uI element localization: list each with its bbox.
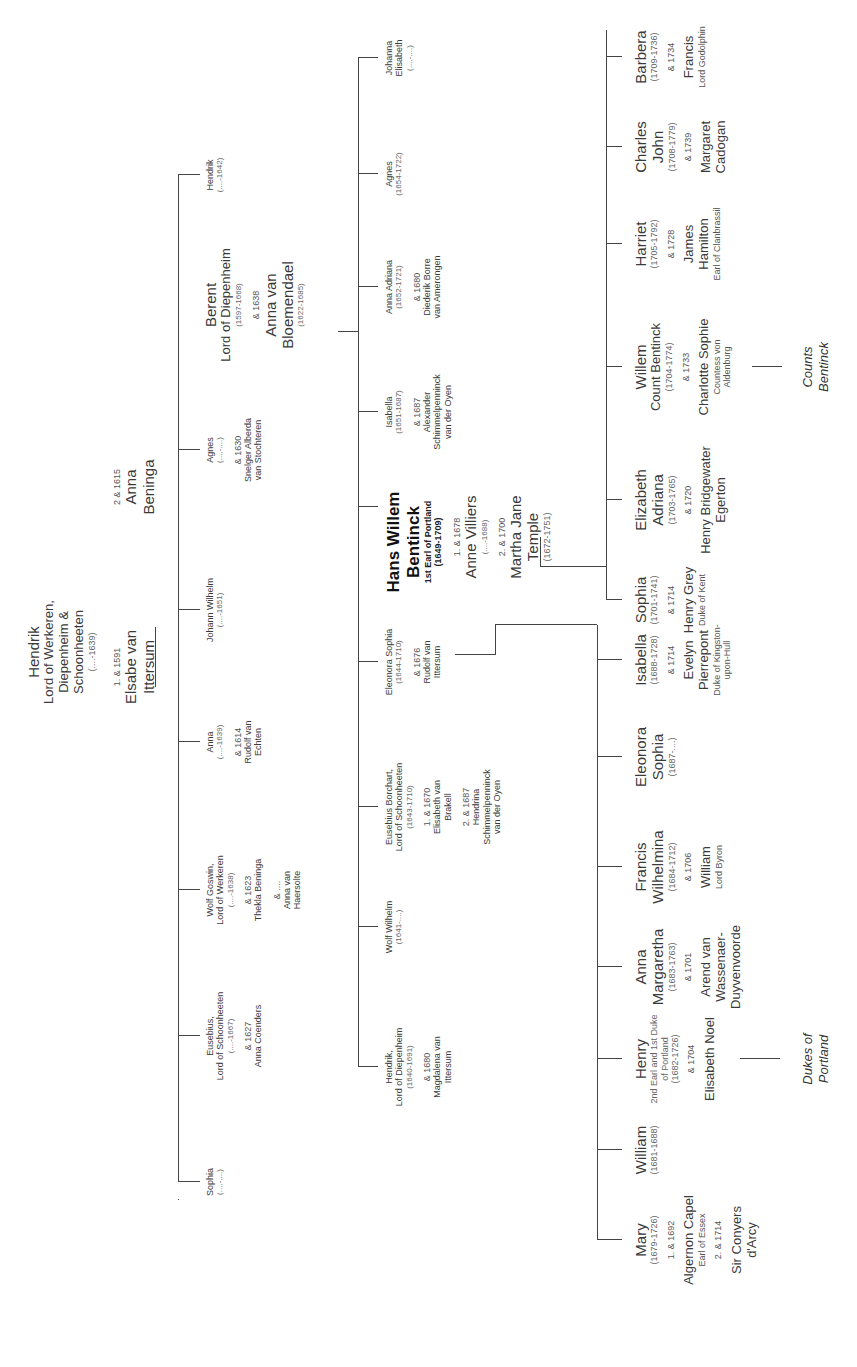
connector xyxy=(155,627,156,687)
name: Elisabeth xyxy=(394,39,404,76)
years: (1597-1668) xyxy=(234,248,243,361)
person-anna-adriana: Anna Adriana (1652-1721) & 1680 Diederik… xyxy=(384,255,443,318)
years: (1705-1792) xyxy=(649,207,659,280)
person-isabella: Isabella (1651-1687) & 1687 Alexander Sc… xyxy=(384,374,453,450)
name: Hendrik xyxy=(205,158,215,193)
name: Sophia xyxy=(632,567,649,633)
connector xyxy=(338,331,358,332)
name: Hans Willem xyxy=(384,492,404,593)
connector xyxy=(570,566,606,567)
name: Elizabeth xyxy=(632,446,649,554)
years: (1640-1691) xyxy=(405,1028,414,1107)
spouse: Elisabeth van xyxy=(432,763,442,852)
connector xyxy=(358,806,378,807)
person-barbera: Barbera (1709-1736) & 1734 Francis Lord … xyxy=(632,26,707,88)
name: Harriet xyxy=(632,207,649,280)
connector xyxy=(752,366,782,367)
person-agnes: Agnes (....-....) & 1630 Snelger Alberda… xyxy=(205,418,264,482)
title: Lord of Schoonheeten xyxy=(215,992,225,1081)
person-sophia-jr: Sophia (1701-1741) & 1714 Henry Grey Duk… xyxy=(632,567,707,633)
connector xyxy=(178,741,200,742)
spouse: Duyvenvoorde xyxy=(729,925,744,1009)
title-line: Schoonheeten xyxy=(72,600,87,704)
name: Sophia xyxy=(649,727,666,787)
connector xyxy=(606,146,622,147)
spouse: Martha Jane xyxy=(507,495,524,578)
name: Anna Adriana xyxy=(384,255,394,318)
name: Hendrik, xyxy=(384,1028,394,1107)
root-spouse-1: 1. & 1591 Elsabe van Ittersum xyxy=(112,630,157,704)
person-hendrik-diepenheim: Hendrik, Lord of Diepenheim (1640-1691) … xyxy=(384,1028,453,1107)
years: (....-1638) xyxy=(226,855,235,924)
marriage: & 1704 xyxy=(686,1014,696,1103)
root-spouse-2: 2 & 1615 Anna Beninga xyxy=(112,459,157,514)
years: (....-1667) xyxy=(226,992,235,1081)
spouse: Alexander xyxy=(422,374,432,450)
label-dukes-of-portland: Dukes of Portland xyxy=(800,1033,831,1084)
connector xyxy=(178,174,200,175)
connector xyxy=(597,756,622,757)
spouse: James xyxy=(682,207,697,280)
marriage: & 1687 xyxy=(412,374,422,450)
spouse: Schimmelpenninck xyxy=(432,374,442,450)
spouse: Egerton xyxy=(714,446,729,554)
connector xyxy=(597,966,622,967)
years: (....-....) xyxy=(215,418,224,482)
person-eleonora-sophia: Eleonora Sophia (1644-1710) & 1676 Rudol… xyxy=(384,629,443,696)
connector xyxy=(597,1149,622,1150)
spouse: Beninga xyxy=(140,459,157,514)
person-charles-john: Charles John (1708-1779) & 1739 Margaret… xyxy=(632,121,729,174)
label-line: Dukes of xyxy=(800,1033,816,1084)
connector xyxy=(358,286,378,287)
years: (....-1642) xyxy=(215,158,224,193)
connector xyxy=(178,1199,179,1200)
title: Lord of Diepenheim xyxy=(394,1028,404,1107)
spouse: Bloemendael xyxy=(279,248,296,361)
marriage: & 1680 xyxy=(422,1028,432,1107)
title: Lord of Schoonheeten xyxy=(394,763,404,852)
connector xyxy=(597,659,622,660)
years: (1684-1712) xyxy=(667,830,677,903)
connector xyxy=(178,1035,200,1036)
years: (1622-1685) xyxy=(296,248,305,361)
years: (1649-1709) xyxy=(433,492,443,593)
connector xyxy=(597,1058,622,1059)
spouse: Arend van xyxy=(699,925,714,1009)
years: (....-....) xyxy=(215,1168,224,1196)
name: Barbera xyxy=(632,26,649,88)
years: (1683-1763) xyxy=(667,925,677,1009)
years: (....-1639) xyxy=(87,600,97,704)
spouse: Anne Villiers xyxy=(462,495,479,578)
spouse: Margaret xyxy=(699,121,714,174)
marriage: & 1623 xyxy=(243,855,253,924)
connector xyxy=(570,624,597,625)
label-counts-bentinck: Counts Bentinck xyxy=(800,342,831,392)
years: (1687-....) xyxy=(667,727,677,787)
name: Charles xyxy=(632,121,649,174)
gen3-rail xyxy=(358,58,359,1067)
name: Johanna xyxy=(384,39,394,76)
years: (1654-1722) xyxy=(394,152,403,196)
name: Agnes xyxy=(205,418,215,482)
spouse: Anna xyxy=(122,459,139,514)
name: Eusebius, xyxy=(205,992,215,1081)
name: Wilhelmina xyxy=(649,830,666,903)
name: Willem xyxy=(632,319,649,416)
years: (....-....) xyxy=(405,39,414,76)
connector xyxy=(455,654,495,655)
person-anna: Anna (....-1639) & 1614 Rudolf van Echte… xyxy=(205,720,264,763)
name: Francis xyxy=(632,830,649,903)
person-agnes-jr: Agnes (1654-1722) xyxy=(384,152,404,196)
spouse-title: Lord Byron xyxy=(714,830,724,903)
spouse: Henry Grey xyxy=(682,567,697,633)
marriage: & 1630 xyxy=(233,418,243,482)
years: (1652-1721) xyxy=(394,255,403,318)
name: Wolf Goswin, xyxy=(205,855,215,924)
spouse: Sir Conyers xyxy=(730,1195,745,1285)
spouse: Thekla Beninga xyxy=(253,855,263,924)
marriage: 2 & 1615 xyxy=(112,459,122,514)
marriage: 1. & 1670 xyxy=(422,763,432,852)
years: (1643-1710) xyxy=(405,763,414,852)
marriage: & 1739 xyxy=(683,121,693,174)
name: Sophia xyxy=(205,1168,215,1196)
